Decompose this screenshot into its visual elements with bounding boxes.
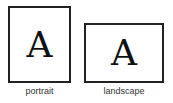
portrait-page: A [8, 6, 71, 83]
landscape-page: A [84, 23, 164, 83]
landscape-label: landscape [84, 86, 164, 96]
portrait-label: portrait [8, 86, 71, 96]
landscape-letter: A [111, 35, 137, 71]
portrait-letter: A [27, 27, 53, 63]
